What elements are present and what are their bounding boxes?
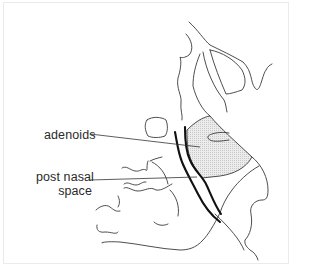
palate-left-wave xyxy=(96,206,120,212)
septum-line-a xyxy=(203,52,227,112)
palate-contour xyxy=(245,157,268,260)
nasal-left-contour xyxy=(178,34,192,120)
post-nasal-space-leader xyxy=(90,177,197,180)
concha-line-1 xyxy=(122,161,148,171)
concha-line-2 xyxy=(124,182,146,185)
pharynx-back-wall xyxy=(215,214,244,250)
palate-left-tick xyxy=(118,196,120,207)
palate-left-bottom xyxy=(97,225,118,233)
post-nasal-space-line-2: space xyxy=(36,184,92,198)
adenoids-leader xyxy=(90,134,200,147)
maxilla-right-contour xyxy=(170,190,179,216)
nasal-outline xyxy=(189,22,272,89)
maxilla-curve xyxy=(152,162,168,184)
adenoids-label: adenoids xyxy=(44,128,96,142)
turbinate-blob xyxy=(145,117,167,137)
concha-line-4 xyxy=(150,157,162,161)
concha-line-3 xyxy=(124,184,172,191)
post-nasal-space-label: post nasal space xyxy=(36,170,92,198)
post-nasal-space-line-1: post nasal xyxy=(36,170,92,184)
palate-mid-curve xyxy=(154,222,168,225)
tongue-base xyxy=(102,213,220,250)
septum-line-b xyxy=(193,54,210,116)
